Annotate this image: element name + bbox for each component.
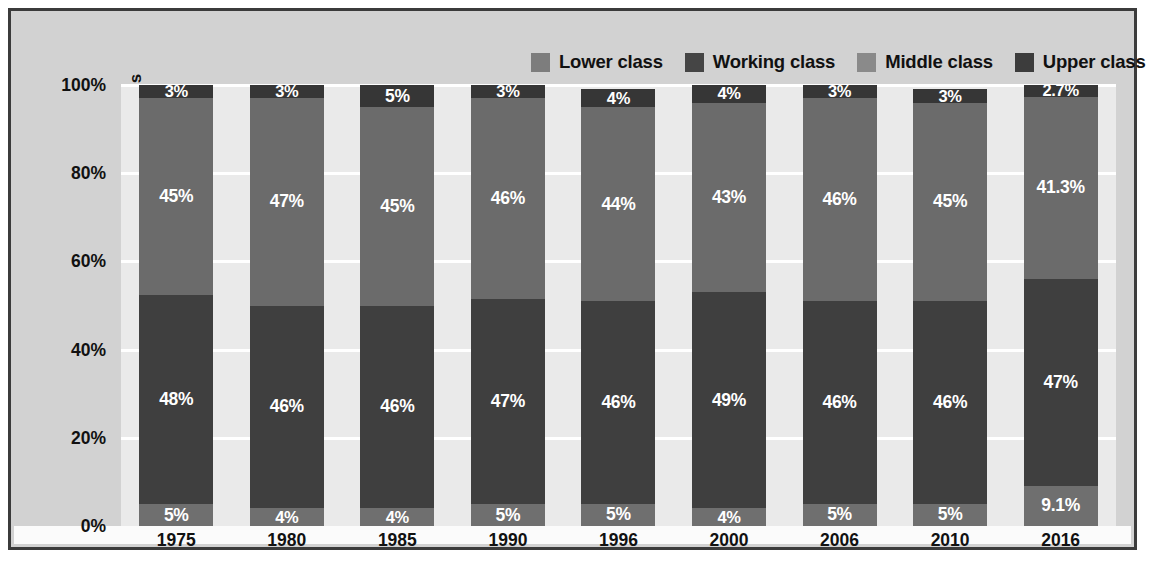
legend-label: Lower class [559, 51, 663, 73]
figure-inner: Lower classWorking classMiddle classUppe… [11, 11, 1134, 547]
legend-label: Working class [713, 51, 836, 73]
y-axis-tick-label: 80% [16, 163, 106, 184]
bar-segment[interactable]: 9.1% [1024, 486, 1098, 526]
bar-segment[interactable]: 48% [139, 295, 213, 505]
bar-segment[interactable]: 47% [250, 98, 324, 305]
bar-segment[interactable]: 5% [803, 504, 877, 526]
bar-column[interactable]: 3%45%48%5% [139, 85, 213, 526]
bar-segment[interactable]: 46% [581, 301, 655, 504]
bar-segment[interactable]: 46% [913, 301, 987, 504]
bar-segment[interactable]: 3% [139, 85, 213, 98]
legend-swatch-icon [685, 53, 704, 72]
bar-segment[interactable]: 5% [471, 504, 545, 526]
bar-segment[interactable]: 46% [250, 306, 324, 509]
legend-label: Upper class [1043, 51, 1146, 73]
bar-segment[interactable]: 46% [360, 306, 434, 509]
y-axis-tick-label: 60% [16, 251, 106, 272]
bar-group: 3%45%48%5%3%47%46%4%5%45%46%4%3%46%47%5%… [121, 85, 1116, 526]
x-axis-tick-label: 1985 [360, 530, 434, 551]
legend-swatch-icon [1015, 53, 1034, 72]
x-axis-tick-label: 2010 [913, 530, 987, 551]
bar-segment[interactable]: 43% [692, 103, 766, 293]
bar-segment[interactable]: 4% [360, 508, 434, 526]
bar-segment[interactable]: 3% [471, 85, 545, 98]
bar-segment[interactable]: 5% [581, 504, 655, 526]
x-axis-tick-label: 1990 [471, 530, 545, 551]
bar-segment[interactable]: 46% [471, 98, 545, 299]
bar-segment[interactable]: 46% [803, 98, 877, 301]
legend-item[interactable]: Upper class [1015, 51, 1146, 73]
legend-label: Middle class [885, 51, 993, 73]
legend-item[interactable]: Working class [685, 51, 836, 73]
x-axis-tick-label: 1975 [139, 530, 213, 551]
bar-column[interactable]: 5%45%46%4% [360, 85, 434, 526]
y-axis-tick-label: 20% [16, 427, 106, 448]
bar-segment[interactable]: 45% [139, 98, 213, 294]
bar-segment[interactable]: 5% [360, 85, 434, 107]
legend-swatch-icon [531, 53, 550, 72]
legend-item[interactable]: Lower class [531, 51, 663, 73]
bar-segment[interactable]: 2.7% [1024, 85, 1098, 97]
x-axis-tick-labels: 197519801985199019962000200620102016 [121, 530, 1116, 556]
x-axis-tick-label: 2016 [1024, 530, 1098, 551]
bar-segment[interactable]: 41.3% [1024, 97, 1098, 279]
y-axis-tick-label: 0% [16, 516, 106, 537]
legend-item[interactable]: Middle class [857, 51, 993, 73]
bar-column[interactable]: 3%46%47%5% [471, 85, 545, 526]
bar-column[interactable]: 2.7%41.3%47%9.1% [1024, 85, 1098, 526]
bar-segment[interactable]: 3% [913, 89, 987, 102]
x-axis-tick-label: 1996 [581, 530, 655, 551]
legend-swatch-icon [857, 53, 876, 72]
chart-legend: Lower classWorking classMiddle classUppe… [531, 49, 1146, 75]
bar-segment[interactable]: 3% [250, 85, 324, 98]
bar-segment[interactable]: 47% [1024, 279, 1098, 486]
x-axis-tick-label: 1980 [250, 530, 324, 551]
bar-column[interactable]: 3%45%46%5% [913, 85, 987, 526]
bar-segment[interactable]: 4% [692, 85, 766, 103]
y-axis-tick-label: 40% [16, 339, 106, 360]
plot-wrapper: 3%45%48%5%3%47%46%4%5%45%46%4%3%46%47%5%… [121, 85, 1116, 526]
bar-segment[interactable]: 3% [803, 85, 877, 98]
bar-column[interactable]: 3%46%46%5% [803, 85, 877, 526]
bar-segment[interactable]: 5% [913, 504, 987, 526]
bar-segment[interactable]: 45% [913, 103, 987, 301]
bar-segment[interactable]: 44% [581, 107, 655, 301]
bar-segment[interactable]: 5% [139, 504, 213, 526]
bar-column[interactable]: 3%47%46%4% [250, 85, 324, 526]
chart-figure: Lower classWorking classMiddle classUppe… [8, 8, 1137, 550]
bar-segment[interactable]: 4% [581, 89, 655, 107]
bar-segment[interactable]: 49% [692, 292, 766, 508]
bar-segment[interactable]: 45% [360, 107, 434, 305]
x-axis-tick-label: 2000 [692, 530, 766, 551]
bar-segment[interactable]: 4% [692, 508, 766, 526]
bar-segment[interactable]: 46% [803, 301, 877, 504]
x-axis-tick-label: 2006 [803, 530, 877, 551]
y-axis-tick-label: 100% [16, 75, 106, 96]
bar-column[interactable]: 4%44%46%5% [581, 85, 655, 526]
bar-segment[interactable]: 47% [471, 299, 545, 504]
bar-column[interactable]: 4%43%49%4% [692, 85, 766, 526]
bar-segment[interactable]: 4% [250, 508, 324, 526]
